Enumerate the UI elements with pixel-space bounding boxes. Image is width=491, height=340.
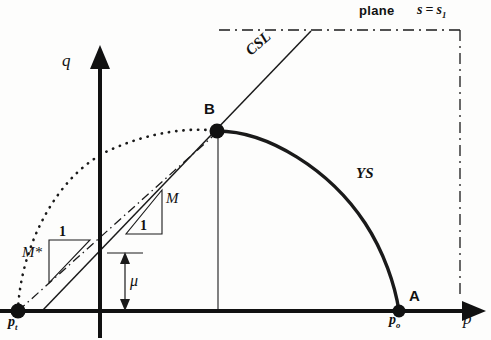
yield-surface-figure: q p pt po A B CSL YS M* 1 M 1 μ plane s=… xyxy=(0,0,491,340)
ys-arc xyxy=(217,131,399,311)
slope-label-m: M xyxy=(166,191,179,206)
mu-arrowhead-up xyxy=(120,252,130,264)
suction-plane-boundary xyxy=(219,30,460,297)
slope-label-one-right: 1 xyxy=(140,219,147,233)
point-markers xyxy=(11,124,406,319)
critical-state-line xyxy=(42,31,311,311)
point-label-pt-subscript: t xyxy=(15,322,17,332)
m-star-triangle xyxy=(49,240,90,283)
plane-label: plane xyxy=(359,4,394,17)
suction-subscript: 1 xyxy=(442,10,446,20)
slope-label-one-left: 1 xyxy=(59,225,66,239)
slope-label-m-star: M* xyxy=(22,245,42,260)
q-axis xyxy=(90,45,110,338)
point-label-a: A xyxy=(409,288,420,303)
point-label-pt: pt xyxy=(8,315,17,331)
q-axis-label: q xyxy=(62,52,71,69)
ys-label: YS xyxy=(356,166,374,181)
point-label-po: po xyxy=(389,313,400,329)
suction-expression: s=s1 xyxy=(417,3,446,19)
point-label-b: B xyxy=(204,101,215,116)
slope-triangle-m-star xyxy=(49,240,90,283)
p-axis-label: p xyxy=(463,310,472,327)
yield-surface-curve xyxy=(217,131,399,311)
point-label-po-subscript: o xyxy=(396,320,400,330)
q-axis-arrowhead xyxy=(90,45,110,69)
point-label-po-base: p xyxy=(389,312,396,327)
p-axis xyxy=(0,301,486,321)
csl-line xyxy=(42,31,311,311)
mu-label: μ xyxy=(130,273,138,289)
point-marker-b xyxy=(210,124,225,139)
suction-operator: = xyxy=(422,2,436,17)
point-label-pt-base: p xyxy=(8,314,15,329)
